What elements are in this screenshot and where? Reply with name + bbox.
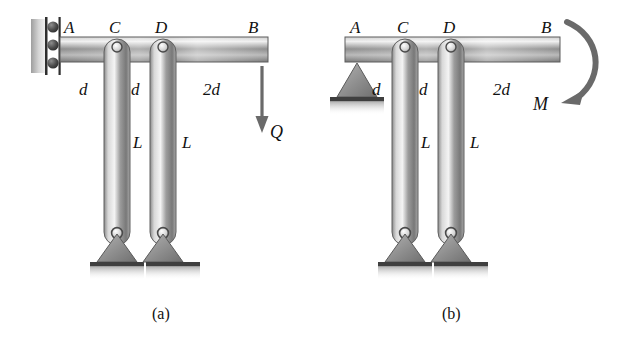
panel-b: A C D B d d 2d L L M: [330, 18, 596, 280]
label-a-column-left: L: [132, 133, 142, 152]
dim-b-db: 2d: [493, 80, 511, 99]
base-support-left-b: [378, 234, 432, 280]
label-b-joint-a: A: [349, 18, 361, 37]
caption-a: (a): [152, 305, 170, 323]
base-support-left-a: [90, 234, 144, 280]
label-a-joint-d: D: [154, 18, 168, 37]
column-right-b: [438, 39, 464, 245]
panel-a: A C D B d d 2d L L Q: [31, 17, 283, 280]
label-a-joint-b: B: [248, 18, 259, 37]
label-b-column-left: L: [420, 133, 430, 152]
dim-a-ac: d: [79, 80, 88, 99]
dim-a-db: 2d: [203, 80, 221, 99]
label-a-load: Q: [270, 122, 283, 142]
load-arrow-q: [256, 66, 269, 133]
label-b-column-right: L: [469, 133, 479, 152]
label-a-joint-a: A: [63, 18, 75, 37]
column-left-a: [104, 39, 130, 245]
label-b-joint-b: B: [541, 18, 552, 37]
moment-arrow-m: [561, 22, 596, 105]
dim-b-ac: d: [372, 80, 381, 99]
caption-b: (b): [442, 305, 461, 323]
dim-a-cd: d: [131, 80, 140, 99]
label-b-load: M: [532, 94, 549, 114]
label-b-joint-c: C: [397, 18, 409, 37]
label-a-column-right: L: [181, 133, 191, 152]
column-right-a: [150, 39, 176, 245]
label-a-joint-c: C: [109, 18, 121, 37]
column-left-b: [392, 39, 418, 245]
dim-b-cd: d: [419, 80, 428, 99]
roller-wall-support-a: [31, 17, 61, 75]
figure-container: A C D B d d 2d L L Q: [0, 0, 630, 343]
label-b-joint-d: D: [442, 18, 456, 37]
